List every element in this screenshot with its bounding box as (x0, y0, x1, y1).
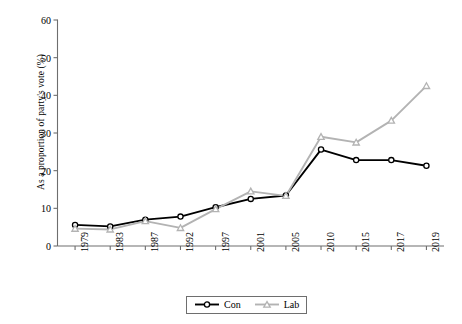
x-tick-label: 1997 (220, 232, 231, 252)
x-tick-label: 2017 (395, 232, 406, 252)
x-tick-label: 2010 (325, 232, 336, 252)
legend-label: Con (224, 300, 241, 310)
legend-entry-con[interactable]: Con (194, 299, 241, 310)
circle-marker-icon (194, 299, 220, 310)
legend-entry-lab[interactable]: Lab (254, 299, 300, 310)
x-tick-label: 2005 (290, 232, 301, 252)
x-tick-label: 2001 (255, 232, 266, 252)
x-axis-tick-labels: 1979198319871992199720012005201020152017… (0, 0, 462, 324)
x-tick-label: 2015 (360, 232, 371, 252)
chart-container: As a proportion of party's vote (%) 0102… (0, 0, 462, 324)
x-tick-label: 1979 (79, 232, 90, 252)
triangle-marker-icon (254, 299, 280, 310)
x-tick-label: 1992 (184, 232, 195, 252)
legend-label: Lab (284, 300, 300, 310)
x-tick-label: 1987 (149, 232, 160, 252)
chart-legend: ConLab (186, 296, 307, 314)
x-tick-label: 2019 (430, 232, 441, 252)
x-tick-label: 1983 (114, 232, 125, 252)
